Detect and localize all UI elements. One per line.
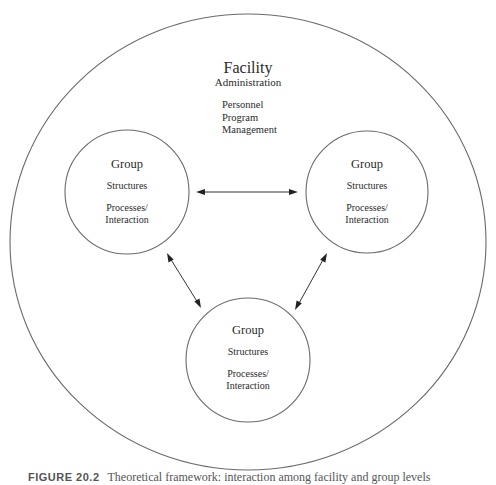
figure-caption: FIGURE 20.2Theoretical framework: intera… [28, 470, 430, 485]
arrow-right-bottom [295, 253, 327, 310]
facility-item-management: Management [222, 124, 277, 137]
facility-title: Facility [0, 60, 496, 76]
arrowhead-icon [167, 253, 174, 263]
facility-item-personnel: Personnel [222, 99, 277, 112]
group-structures: Structures [305, 181, 429, 191]
group-right: Group Structures Processes/ Interaction [305, 158, 429, 226]
group-processes: Processes/ [186, 368, 310, 380]
group-structures: Structures [186, 347, 310, 357]
figure-caption-text: Theoretical framework: interaction among… [108, 470, 431, 484]
arrowhead-icon [289, 189, 298, 195]
arrow-left-right [196, 189, 298, 195]
group-interaction: Interaction [186, 380, 310, 392]
group-title: Group [186, 324, 310, 337]
group-interaction: Interaction [305, 214, 429, 226]
facility-items: Personnel Program Management [222, 99, 277, 137]
group-processes: Processes/ [305, 202, 429, 214]
group-left: Group Structures Processes/ Interaction [65, 158, 189, 226]
group-bottom: Group Structures Processes/ Interaction [186, 324, 310, 392]
facility-item-program: Program [222, 112, 277, 125]
figure-number: FIGURE 20.2 [28, 471, 100, 483]
group-title: Group [65, 158, 189, 171]
group-processes: Processes/ [65, 202, 189, 214]
arrow-left-bottom [167, 253, 201, 308]
group-title: Group [305, 158, 429, 171]
facility-subtitle: Administration [0, 77, 496, 88]
group-interaction: Interaction [65, 214, 189, 226]
arrowhead-icon [320, 253, 327, 263]
arrowhead-icon [196, 189, 205, 195]
group-structures: Structures [65, 181, 189, 191]
arrowhead-icon [194, 299, 201, 309]
arrowhead-icon [295, 300, 302, 310]
